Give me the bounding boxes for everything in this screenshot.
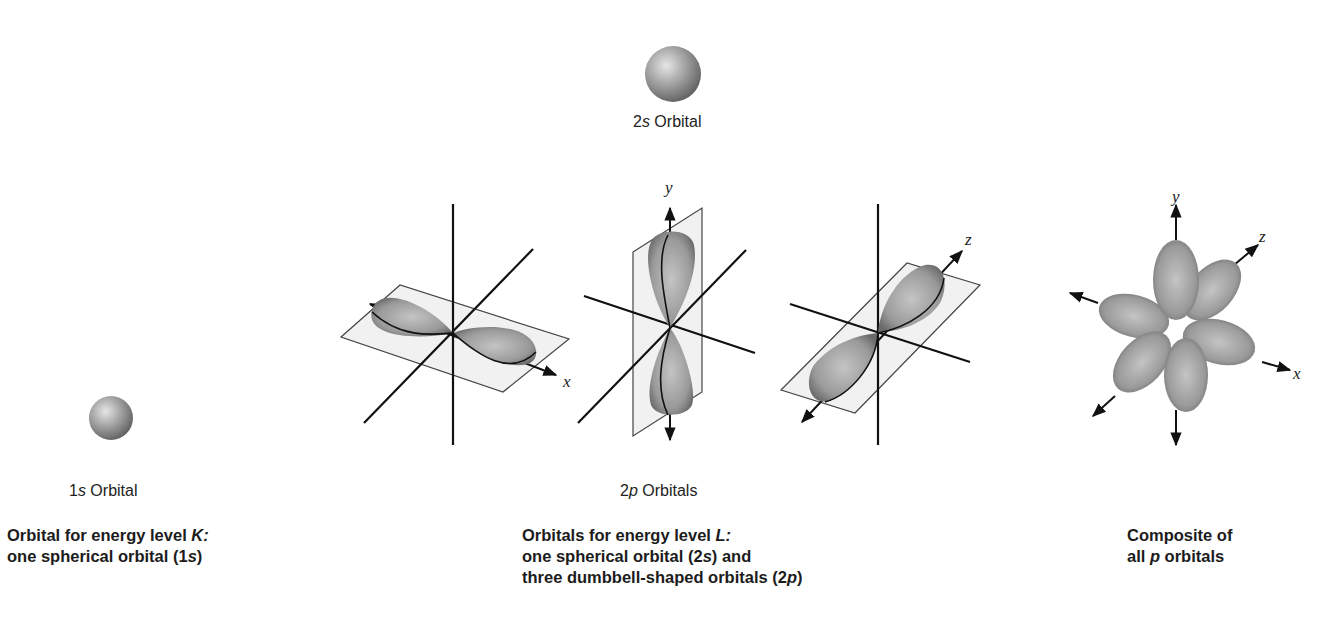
- orbital-1s-sphere: [89, 396, 133, 440]
- axis-label-z-composite: z: [1259, 227, 1266, 247]
- caption-l-line2-text: one spherical orbital (2: [522, 547, 703, 565]
- caption-l-line1: Orbitals for energy level L:: [522, 525, 803, 546]
- label-2p-sym: p: [629, 482, 638, 499]
- label-2p-word: Orbitals: [638, 482, 698, 499]
- caption-l-line1-italic: L:: [716, 526, 732, 544]
- caption-l-line2: one spherical orbital (2s) and: [522, 546, 803, 567]
- caption-composite-line1: Composite of: [1127, 525, 1232, 546]
- caption-k-line1: Orbital for energy level K:: [7, 525, 209, 546]
- label-1s-sym: s: [78, 482, 86, 499]
- caption-k-line2-text: one spherical orbital (1: [7, 547, 188, 565]
- caption-l-level: Orbitals for energy level L: one spheric…: [522, 525, 803, 588]
- axis-label-z-2pz: z: [965, 230, 972, 250]
- caption-l-line3-end: ): [797, 568, 803, 586]
- caption-l-line3-text: three dumbbell-shaped orbitals (2: [522, 568, 787, 586]
- composite-p-orbitals-diagram: [1070, 205, 1290, 445]
- label-1s-orbital: 1s Orbital: [69, 482, 137, 500]
- label-2p-num: 2: [620, 482, 629, 499]
- caption-k-line2-end: ): [197, 547, 203, 565]
- axis-label-y-2py: y: [665, 178, 673, 198]
- label-2s-num: 2: [633, 113, 642, 130]
- caption-k-level: Orbital for energy level K: one spherica…: [7, 525, 209, 567]
- caption-composite-line2-italic: p: [1150, 547, 1160, 565]
- orbital-2py-diagram: [578, 208, 755, 440]
- orbital-2pz-diagram: [781, 204, 980, 445]
- caption-k-line1-italic: K:: [191, 526, 208, 544]
- caption-l-line2-italic: s: [703, 547, 712, 565]
- caption-l-line3-italic: p: [787, 568, 797, 586]
- caption-l-line1-text: Orbitals for energy level: [522, 526, 716, 544]
- label-2p-orbitals: 2p Orbitals: [620, 482, 697, 500]
- caption-k-line1-text: Orbital for energy level: [7, 526, 191, 544]
- caption-composite: Composite of all p orbitals: [1127, 525, 1232, 567]
- caption-composite-line2-text: all: [1127, 547, 1150, 565]
- label-1s-num: 1: [69, 482, 78, 499]
- caption-l-line2-end: ) and: [712, 547, 751, 565]
- label-1s-word: Orbital: [86, 482, 138, 499]
- label-2s-sym: s: [642, 113, 650, 130]
- caption-k-line2: one spherical orbital (1s): [7, 546, 209, 567]
- label-2s-word: Orbital: [650, 113, 702, 130]
- label-2s-orbital: 2s Orbital: [633, 113, 701, 131]
- caption-k-line2-italic: s: [188, 547, 197, 565]
- caption-composite-line2-end: orbitals: [1160, 547, 1224, 565]
- axis-label-x-2px: x: [563, 372, 571, 392]
- caption-composite-line2: all p orbitals: [1127, 546, 1232, 567]
- axis-label-y-composite: y: [1172, 187, 1180, 207]
- orbital-2s-sphere: [645, 46, 701, 102]
- caption-l-line3: three dumbbell-shaped orbitals (2p): [522, 567, 803, 588]
- orbital-2px-diagram: [341, 204, 569, 445]
- axis-label-x-composite: x: [1293, 364, 1301, 384]
